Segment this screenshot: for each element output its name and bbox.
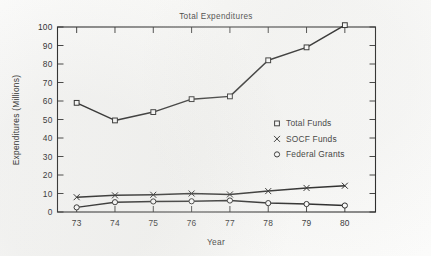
series-polyline [77, 25, 345, 120]
square-marker [275, 121, 280, 126]
y-tick-label: 20 [43, 170, 53, 180]
y-tick-label: 0 [48, 207, 53, 217]
circle-marker [274, 152, 279, 157]
x-tick-label: 73 [72, 218, 82, 228]
y-tick-label: 90 [43, 41, 53, 51]
y-tick-label: 70 [43, 78, 53, 88]
x-tick-label: 74 [110, 218, 120, 228]
chart-title: Total Expenditures [179, 12, 253, 21]
circle-marker [74, 205, 79, 210]
square-marker [266, 58, 271, 63]
y-tick-label: 10 [43, 189, 53, 199]
square-marker [151, 110, 156, 115]
legend-label: Total Funds [286, 118, 332, 128]
square-marker [189, 97, 194, 102]
x-tick-label: 77 [225, 218, 235, 228]
circle-marker [227, 198, 232, 203]
circle-marker [151, 199, 156, 204]
square-marker [342, 23, 347, 28]
legend-label: SOCF Funds [286, 134, 337, 144]
x-tick-label: 80 [340, 218, 350, 228]
legend-label: Federal Grants [286, 149, 345, 159]
y-tick-label: 40 [43, 133, 53, 143]
y-axis-title: Expenditures (Millions) [11, 75, 21, 165]
x-tick-label: 76 [187, 218, 197, 228]
chart-legend: Total FundsSOCF FundsFederal Grants [274, 118, 345, 159]
chart-figure: 0102030405060708090100 7374757677787980 … [0, 0, 431, 256]
y-tick-label: 30 [43, 152, 53, 162]
square-marker [304, 45, 309, 50]
square-marker [228, 94, 233, 99]
y-tick-label: 100 [38, 22, 53, 32]
circle-marker [342, 203, 347, 208]
y-tick-label: 60 [43, 96, 53, 106]
series-socf-funds [74, 183, 348, 200]
data-series-group [74, 23, 348, 210]
circle-marker [304, 201, 309, 206]
x-tick-label: 75 [148, 218, 158, 228]
x-tick-label: 78 [263, 218, 273, 228]
circle-marker [189, 199, 194, 204]
series-total-funds [74, 23, 347, 123]
square-marker [113, 118, 118, 123]
square-marker [74, 100, 79, 105]
x-axis-title: Year [207, 237, 225, 247]
x-tick-label: 79 [302, 218, 312, 228]
circle-marker [112, 200, 117, 205]
total-expenditures-line-chart: 0102030405060708090100 7374757677787980 … [0, 0, 431, 256]
series-polyline [77, 186, 345, 197]
circle-marker [266, 201, 271, 206]
y-tick-label: 50 [43, 115, 53, 125]
y-tick-label: 80 [43, 59, 53, 69]
